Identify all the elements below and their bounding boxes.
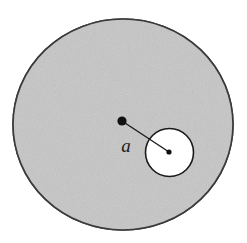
cavity-center-dot	[166, 149, 171, 154]
disk-center-dot	[117, 116, 126, 125]
figure-container: a	[0, 0, 247, 243]
disk-cavity-diagram: a	[0, 0, 247, 243]
distance-label-a: a	[121, 135, 131, 156]
